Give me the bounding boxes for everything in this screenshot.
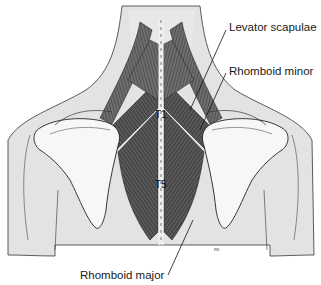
label-rhomboid-major: Rhomboid major bbox=[80, 270, 164, 282]
vertebra-t1-marker: T1 bbox=[155, 110, 167, 120]
artist-initials: RK bbox=[214, 247, 220, 252]
anatomy-illustration bbox=[0, 0, 321, 285]
vertebra-t5-marker: T5 bbox=[155, 180, 167, 190]
label-rhomboid-minor: Rhomboid minor bbox=[229, 66, 313, 78]
label-levator-scapulae: Levator scapulae bbox=[229, 22, 317, 34]
